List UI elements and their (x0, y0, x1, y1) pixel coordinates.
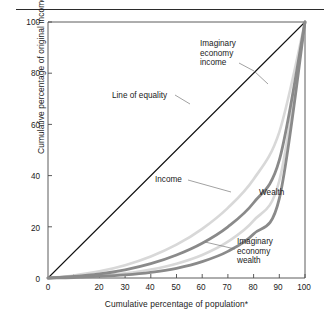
annotation-imaginary-economy-wealth: Imaginary economy wealth (237, 237, 273, 266)
annotation-line: economy (237, 247, 273, 257)
annotation-line: Imaginary (200, 39, 236, 49)
annotation-wealth: Wealth (259, 188, 284, 198)
annotation-line: Imaginary (237, 237, 273, 247)
x-tick-label-100: 100 (291, 283, 317, 292)
chart-canvas (0, 0, 335, 322)
x-tick-label-70: 70 (214, 283, 240, 292)
y-tick-label-60: 60 (14, 121, 40, 130)
x-axis-label: Cumulative percentage of population* (48, 299, 305, 309)
leader-imaginary-economy-wealth (205, 242, 235, 249)
annotation-line-of-equality: Line of equality (112, 91, 167, 101)
y-tick-label-40: 40 (14, 172, 40, 181)
y-tick-label-100: 100 (14, 18, 40, 27)
x-tick-label-40: 40 (137, 283, 163, 292)
leader-income (188, 180, 231, 192)
leader-line-of-equality (175, 95, 190, 104)
y-tick-label-80: 80 (14, 69, 40, 78)
annotation-line: economy (200, 49, 236, 59)
x-tick-label-30: 30 (112, 283, 138, 292)
x-tick-label-60: 60 (188, 283, 214, 292)
annotation-line: wealth (237, 256, 273, 266)
x-tick-label-80: 80 (240, 283, 266, 292)
annotation-imaginary-economy-income: Imaginary economy income (200, 39, 236, 68)
lorenz-curve-figure: Cumulative percentage of original income… (0, 0, 335, 322)
annotation-income: Income (155, 175, 182, 185)
x-tick-label-90: 90 (265, 283, 291, 292)
annotation-line: income (200, 58, 236, 68)
x-tick-label-0: 0 (35, 283, 61, 292)
x-tick-label-20: 20 (86, 283, 112, 292)
y-tick-label-20: 20 (14, 224, 40, 233)
x-tick-label-50: 50 (163, 283, 189, 292)
